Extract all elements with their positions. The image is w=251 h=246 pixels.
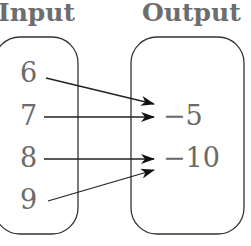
output-title: Output [142, 0, 241, 29]
arrow-6-to-neg5 [46, 78, 154, 104]
input-box [0, 37, 78, 234]
output-value-neg10: −10 [163, 143, 220, 173]
input-value-8: 8 [20, 143, 37, 173]
arrow-9-to-neg10 [48, 170, 154, 201]
input-value-7: 7 [20, 101, 37, 131]
input-value-9: 9 [20, 185, 37, 215]
mapping-diagram: Input Output 6 7 8 9 −5 −10 [0, 0, 251, 246]
diagram-graphics [0, 0, 251, 246]
input-title: Input [0, 0, 75, 29]
input-value-6: 6 [20, 58, 37, 88]
output-box [131, 37, 244, 234]
output-value-neg5: −5 [163, 101, 203, 131]
